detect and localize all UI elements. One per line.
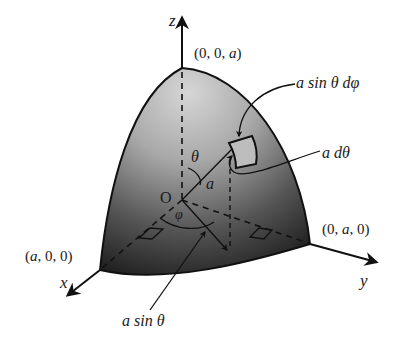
x-axis-label: x (60, 274, 68, 291)
projection-label: a sin θ (122, 313, 165, 329)
y-axis-label: y (360, 272, 368, 289)
x-axis (68, 270, 100, 295)
phi-label: φ (175, 208, 183, 222)
top-point-label: (0, 0, a) (194, 46, 242, 61)
arc-theta-label: a dθ (322, 145, 350, 161)
radius-label: a (206, 176, 214, 192)
origin-label: O (160, 190, 172, 206)
x-intercept-a: a (30, 248, 38, 264)
y-intercept-a: a (342, 221, 350, 237)
spherical-coordinates-diagram: z (0, 0, a) a sin θ dφ θ a dθ a O φ (a, … (0, 0, 411, 347)
x-intercept-label: (a, 0, 0) (25, 249, 73, 264)
arc-phi-label: a sin θ dφ (296, 75, 359, 91)
theta-label: θ (191, 149, 199, 165)
top-point-a: a (229, 45, 237, 61)
z-axis-label: z (169, 12, 176, 29)
y-axis (310, 244, 376, 262)
y-intercept-label: (0, a, 0) (322, 222, 370, 237)
